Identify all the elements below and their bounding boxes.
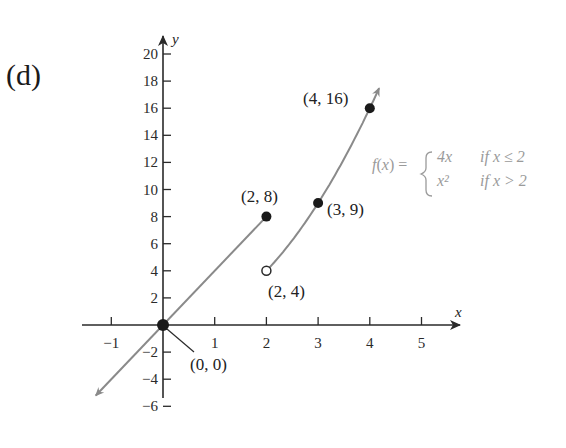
label-leader-line (167, 329, 194, 352)
function-formula: f(x) =4xif x ≤ 2x²if x > 2 (372, 148, 527, 196)
data-points: (0, 0)(2, 8)(3, 9)(4, 16)(2, 4) (157, 89, 375, 374)
x-tick-label: 1 (211, 335, 219, 351)
axes: xy (82, 31, 462, 398)
y-axis-label: y (170, 31, 179, 47)
curves (96, 88, 379, 395)
y-tick-label: 16 (143, 100, 159, 116)
linear-piece (96, 217, 267, 396)
y-tick-label: 4 (151, 263, 159, 279)
quadratic-piece (269, 88, 379, 268)
piecewise-function-graph: xy −112345−6−4−22468101214161820 (0, 0)(… (0, 0, 566, 448)
point-label: (2, 4) (268, 282, 305, 301)
axis-ticks: −112345−6−4−22468101214161820 (103, 46, 425, 414)
y-tick-label: 20 (143, 46, 158, 62)
x-tick-label: 3 (314, 335, 322, 351)
y-tick-label: 2 (151, 290, 159, 306)
formula-lhs: f(x) = (372, 156, 407, 174)
open-point-marker (262, 266, 271, 275)
point-marker (365, 103, 375, 113)
x-tick-label: 4 (366, 335, 374, 351)
x-axis-label: x (454, 304, 462, 320)
piece-condition: if x > 2 (480, 172, 527, 190)
point-label: (4, 16) (303, 89, 348, 108)
x-tick-label: 5 (418, 335, 426, 351)
point-marker (261, 212, 271, 222)
y-tick-label: 6 (151, 236, 159, 252)
y-tick-label: −2 (142, 344, 158, 360)
y-tick-label: −4 (142, 371, 158, 387)
point-marker (313, 198, 323, 208)
point-label: (2, 8) (241, 187, 278, 206)
y-tick-label: 10 (143, 182, 158, 198)
point-label: (3, 9) (327, 200, 364, 219)
y-tick-label: −6 (142, 398, 158, 414)
y-tick-label: 12 (143, 154, 158, 170)
point-label: (0, 0) (190, 355, 227, 374)
y-tick-label: 14 (143, 127, 159, 143)
piece-expression: x² (436, 172, 450, 189)
brace (421, 152, 432, 196)
x-tick-label: −1 (103, 335, 119, 351)
piece-expression: 4x (437, 148, 452, 165)
y-tick-label: 8 (151, 209, 159, 225)
y-tick-label: 18 (143, 73, 158, 89)
x-tick-label: 2 (263, 335, 271, 351)
piece-condition: if x ≤ 2 (480, 148, 525, 166)
